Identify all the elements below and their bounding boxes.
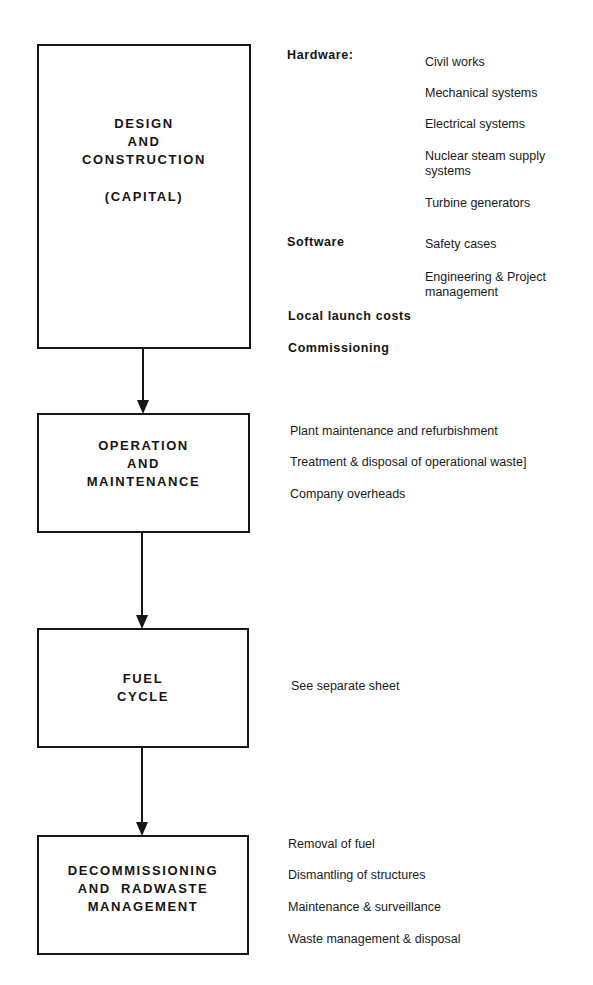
operation-maintenance-box: OPERATION AND MAINTENANCE — [37, 413, 250, 533]
design-title-line: CONSTRUCTION — [39, 151, 249, 169]
decommissioning-title-line: AND RADWASTE — [39, 880, 247, 898]
software-item: Engineering & Project — [425, 270, 546, 285]
design-title-line: AND — [39, 133, 249, 151]
software-item: Safety cases — [425, 237, 497, 252]
decommissioning-title-line: DECOMMISSIONING — [39, 862, 247, 880]
hardware-item: Civil works — [425, 55, 485, 70]
operation-title-line: OPERATION — [39, 437, 248, 455]
design-construction-box: DESIGN AND CONSTRUCTION (CAPITAL) — [37, 44, 251, 349]
decommissioning-item: Dismantling of structures — [288, 868, 426, 883]
operation-title-line: AND — [39, 455, 248, 473]
flow-arrow-icon — [137, 400, 149, 414]
operation-item: Plant maintenance and refurbishment — [290, 424, 498, 439]
hardware-item: Electrical systems — [425, 117, 525, 132]
decommissioning-item: Waste management & disposal — [288, 932, 461, 947]
decommissioning-item: Removal of fuel — [288, 837, 375, 852]
fuel-cycle-note: See separate sheet — [291, 679, 399, 694]
hardware-item: Nuclear steam supply — [425, 149, 545, 164]
flow-arrow-icon — [136, 615, 148, 629]
local-launch-costs-label: Local launch costs — [288, 309, 411, 323]
software-item: management — [425, 285, 498, 300]
fuel-cycle-box: FUEL CYCLE — [37, 628, 249, 748]
decommissioning-title-line: MANAGEMENT — [39, 898, 247, 916]
operation-item: Treatment & disposal of operational wast… — [290, 455, 526, 470]
flow-arrow-icon — [136, 822, 148, 836]
hardware-item: Turbine generators — [425, 196, 530, 211]
flow-connector-line — [141, 748, 143, 822]
commissioning-label: Commissioning — [288, 341, 390, 355]
design-title-capital: (CAPITAL) — [39, 188, 249, 206]
software-label: Software — [287, 235, 345, 249]
fuel-title-line: CYCLE — [39, 688, 247, 706]
flow-connector-line — [142, 349, 144, 401]
hardware-item: systems — [425, 164, 471, 179]
operation-item: Company overheads — [290, 487, 405, 502]
decommissioning-box: DECOMMISSIONING AND RADWASTE MANAGEMENT — [37, 835, 249, 955]
hardware-item: Mechanical systems — [425, 86, 538, 101]
decommissioning-item: Maintenance & surveillance — [288, 900, 441, 915]
flow-connector-line — [141, 533, 143, 615]
operation-title-line: MAINTENANCE — [39, 473, 248, 491]
fuel-title-line: FUEL — [39, 670, 247, 688]
design-title-line: DESIGN — [39, 115, 249, 133]
hardware-label: Hardware: — [287, 48, 354, 62]
